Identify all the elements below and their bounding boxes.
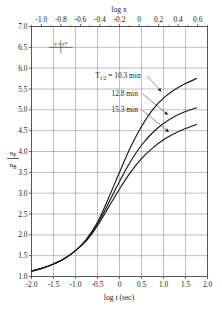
y-tick-label: 5.0 <box>18 105 28 114</box>
y-tick-label: 2.5 <box>18 210 28 219</box>
x-axis-bottom-label: log t (sec) <box>104 293 135 302</box>
annotation-label-1: 12.8 min <box>112 89 139 98</box>
x-axis-top-label: log x <box>111 5 127 14</box>
chart-canvas: -2.0-1.5-1.0-0.500.51.01.52.01.01.52.02.… <box>0 0 222 312</box>
annotation-label-2: 15.3 min <box>112 105 139 114</box>
x-tick-label-bottom: -0.5 <box>92 280 104 289</box>
x-tick-label-top: -0.4 <box>94 15 106 24</box>
half-life-value: = 10.3 min <box>106 71 140 80</box>
xlabel-units: (sec) <box>118 293 135 302</box>
y-tick-label: 4.0 <box>18 147 28 156</box>
xlabel-log: log <box>104 293 116 302</box>
y-tick-label: 2.0 <box>18 230 28 239</box>
x-tick-label-top: 0.2 <box>154 15 164 24</box>
x-tick-label-top: 0.4 <box>174 15 184 24</box>
chart-background <box>0 0 222 312</box>
ylabel-denominator-sub: B <box>13 164 17 170</box>
y-tick-label: 1.5 <box>18 251 28 260</box>
x-tick-label-bottom: -1.0 <box>70 280 82 289</box>
y-tick-label: 5.5 <box>18 85 28 94</box>
x-tick-label-top: 0 <box>137 15 141 24</box>
y-tick-label: 7.0 <box>18 22 28 31</box>
ylabel-numerator-sub: P <box>13 152 16 158</box>
x-tick-label-bottom: 1.0 <box>159 280 169 289</box>
x-tick-label-bottom: 0 <box>118 280 122 289</box>
x-tick-label-bottom: 1.5 <box>181 280 191 289</box>
y-tick-label: 1.0 <box>18 272 28 281</box>
x-tick-label-bottom: 0.5 <box>137 280 147 289</box>
marker-note-text: v = v* <box>54 41 68 47</box>
y-tick-label: 3.5 <box>18 168 28 177</box>
y-tick-label: 4.5 <box>18 126 28 135</box>
x-tick-label-top: -0.6 <box>75 15 87 24</box>
svg-text:log t (sec): log t (sec) <box>104 293 135 302</box>
y-tick-label: 6.0 <box>18 64 28 73</box>
x-tick-label-bottom: 2.0 <box>203 280 213 289</box>
x-tick-label-top: 0.6 <box>193 15 203 24</box>
x-tick-label-bottom: -1.5 <box>48 280 60 289</box>
chart-figure: -2.0-1.5-1.0-0.500.51.01.52.01.01.52.02.… <box>0 0 222 312</box>
x-tick-label-top: -0.2 <box>114 15 126 24</box>
y-tick-label: 3.0 <box>18 189 28 198</box>
y-tick-label: 6.5 <box>18 43 28 52</box>
x-tick-label-top: -1.0 <box>35 15 47 24</box>
x-tick-label-top: -0.8 <box>55 15 67 24</box>
